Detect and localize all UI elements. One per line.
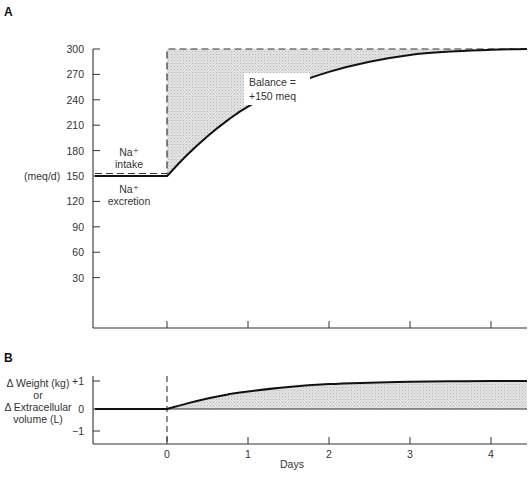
intake-label-line1: Na⁺ [119, 146, 138, 158]
panel-a-y-tick-label: 180 [66, 145, 84, 157]
panel-a-y-tick-label: 60 [72, 246, 84, 258]
panel-a-units-label: (meq/d) [24, 170, 60, 182]
balance-label-line1: Balance = [249, 76, 296, 88]
panel-b-ylabel-line2: or [33, 389, 43, 401]
panel-a-y-tick-label: 210 [66, 119, 84, 131]
panel-b-ylabel-line1: Δ Weight (kg) [7, 377, 70, 389]
panel-a-label: A [4, 5, 13, 19]
panel-b-xlabel: Days [280, 458, 304, 470]
panel-a-y-tick-label: 150 [66, 170, 84, 182]
panel-a-y-tick-label: 270 [66, 68, 84, 80]
panel-b-x-tick-label: 2 [326, 448, 332, 460]
intake-label-line2: intake [115, 158, 143, 170]
balance-label-line2: +150 meq [249, 90, 296, 102]
panel-b-x-tick-label: 4 [488, 448, 494, 460]
excretion-label-line2: excretion [108, 195, 151, 207]
chart-figure: A 306090120150180210240270300 Balance = … [0, 0, 529, 484]
excretion-label-line1: Na⁺ [119, 183, 138, 195]
panel-a-y-tick-label: 240 [66, 94, 84, 106]
panel-a-y-tick-label: 300 [66, 43, 84, 55]
panel-b-y-tick-label: −1 [72, 425, 84, 437]
panel-b-ylabel-line4: volume (L) [13, 413, 63, 425]
balance-shaded-area [167, 49, 527, 176]
panel-b-x-tick-label: 3 [407, 448, 413, 460]
panel-b-x-tick-label: 1 [245, 448, 251, 460]
panel-b-y-tick-label: +1 [72, 375, 84, 387]
panel-a: 306090120150180210240270300 Balance = +1… [24, 43, 527, 328]
panel-a-y-tick-label: 120 [66, 195, 84, 207]
panel-a-y-tick-label: 30 [72, 272, 84, 284]
panel-b-ylabel-line3: Δ Extracellular [4, 401, 72, 413]
panel-b: +10−1 01234 Δ Weight (kg) or Δ Extracell… [4, 375, 527, 470]
panel-b-label: B [4, 351, 13, 365]
panel-a-y-tick-label: 90 [72, 221, 84, 233]
panel-b-x-tick-label: 0 [164, 448, 170, 460]
panel-b-y-tick-label: 0 [78, 403, 84, 415]
